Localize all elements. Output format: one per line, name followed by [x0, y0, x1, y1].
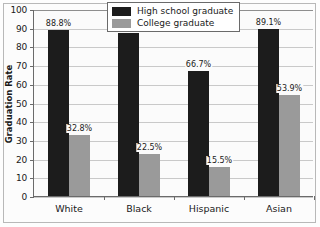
x-axis-label-white: White [55, 203, 83, 214]
y-axis-tick-label: 100 [10, 5, 27, 15]
y-axis-tick-label: 20 [16, 155, 27, 165]
legend-item-high-school: High school graduate [112, 6, 233, 16]
x-axis-label-black: Black [126, 203, 152, 214]
x-axis-label-hispanic: Hispanic [189, 203, 229, 214]
y-axis-tick [30, 197, 34, 198]
plot-inner: 010203040506070809010088.8%32.8%White87.… [34, 10, 313, 196]
bar-asian-college: 53.9% [279, 95, 300, 196]
x-axis-tick [174, 196, 175, 200]
bar-group: 87.0%22.5% [104, 10, 174, 196]
y-axis-title: Graduation Rate [4, 64, 14, 143]
bar-value-label: 89.1% [255, 18, 282, 27]
legend-label-college: College graduate [137, 18, 214, 28]
bar-black-college: 22.5% [139, 154, 160, 196]
bar-white-high-school: 88.8% [48, 30, 69, 196]
y-axis-tick-label: 90 [16, 24, 27, 34]
y-axis-tick-label: 80 [16, 42, 27, 52]
bar-group: 88.8%32.8% [34, 10, 104, 196]
y-axis-tick-label: 40 [16, 117, 27, 127]
bar-hispanic-college: 15.5% [209, 167, 230, 196]
y-axis-tick-label: 10 [16, 173, 27, 183]
legend-swatch-icon-high-school [112, 7, 131, 16]
chart-legend: High school graduate College graduate [107, 2, 240, 32]
x-axis-label-asian: Asian [266, 203, 292, 214]
bar-value-label: 32.8% [66, 124, 93, 133]
bar-white-college: 32.8% [69, 135, 90, 196]
y-axis-tick-label: 30 [16, 136, 27, 146]
y-axis-tick-label: 60 [16, 80, 27, 90]
bar-value-label: 88.8% [45, 19, 72, 28]
x-axis-tick [104, 196, 105, 200]
bar-value-label: 66.7% [185, 60, 212, 69]
bar-group: 89.1%53.9% [244, 10, 314, 196]
bar-black-high-school: 87.0% [118, 33, 139, 196]
y-axis-tick-label: 70 [16, 61, 27, 71]
bar-value-label: 53.9% [276, 84, 303, 93]
bar-value-label: 15.5% [206, 156, 233, 165]
bar-hispanic-high-school: 66.7% [188, 71, 209, 196]
bar-asian-high-school: 89.1% [258, 29, 279, 196]
y-axis-tick-label: 50 [16, 99, 27, 109]
bar-value-label: 22.5% [136, 143, 163, 152]
legend-item-college: College graduate [112, 18, 233, 28]
y-axis-tick-label: 0 [21, 192, 27, 202]
legend-label-high-school: High school graduate [137, 6, 233, 16]
bar-chart: Graduation Rate 010203040506070809010088… [0, 0, 320, 227]
legend-swatch-icon-college [112, 19, 131, 28]
x-axis-tick [244, 196, 245, 200]
bar-group: 66.7%15.5% [174, 10, 244, 196]
plot-area: 010203040506070809010088.8%32.8%White87.… [33, 10, 313, 197]
x-axis-tick [314, 196, 315, 200]
